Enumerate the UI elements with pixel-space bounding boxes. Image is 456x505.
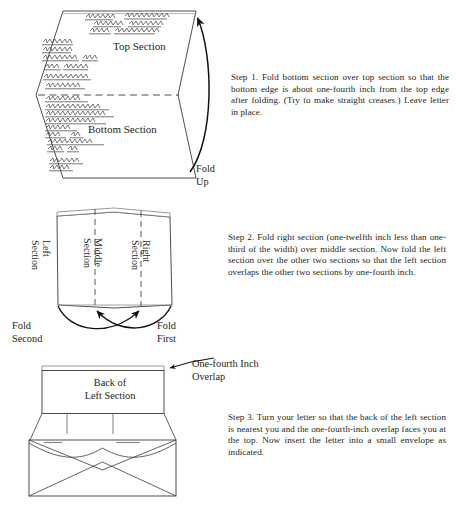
top-section-label: Top Section — [113, 40, 166, 53]
fold-up-label: Fold Up — [196, 163, 215, 188]
right-section-label: Right Section — [130, 240, 152, 270]
fold-second-arrow — [58, 306, 139, 329]
overlap-strip — [42, 366, 164, 371]
figure-1-unfolded-letter — [36, 11, 209, 178]
bottom-section-label: Bottom Section — [88, 123, 157, 136]
page-canvas: Top Section Bottom Section Fold Up Left … — [0, 0, 456, 505]
step-1-text: Step 1. Fold bottom section over top sec… — [231, 72, 449, 118]
step-2-text: Step 2. Fold right section (one-twelfth … — [228, 232, 446, 278]
left-section-label: Left Section — [30, 240, 52, 270]
middle-section-label: Middle Section — [82, 238, 104, 268]
fold-second-label: Fold Second — [12, 320, 42, 345]
back-of-left-section-label: Back of Left Section — [56, 377, 164, 402]
fold-first-label: Fold First — [157, 320, 176, 345]
fold-up-arrow — [190, 18, 209, 172]
one-fourth-inch-overlap-label: One-fourth Inch Overlap — [192, 358, 259, 383]
figure-2-three-sections — [57, 208, 172, 329]
overlap-leader-arrow — [170, 362, 191, 368]
step-3-text: Step 3. Turn your letter so that the bac… — [228, 412, 446, 458]
